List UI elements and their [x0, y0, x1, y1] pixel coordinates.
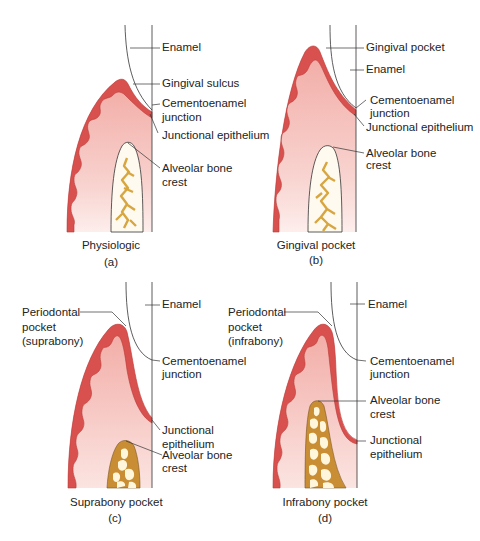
label-enamel: Enamel [162, 41, 201, 54]
label-periodontal: Periodontal [228, 306, 286, 319]
caption-letter-b: (b) [301, 254, 331, 267]
label-infrabony: (infrabony) [228, 335, 283, 348]
label-enamel: Enamel [162, 298, 201, 311]
caption-infrabony-pocket: Infrabony pocket [280, 496, 370, 509]
label-crest: crest [162, 462, 187, 475]
enamel-curve [331, 282, 357, 360]
label-enamel: Enamel [368, 298, 407, 311]
label-gingival-pocket: Gingival pocket [366, 41, 445, 54]
label-junction: junction [370, 107, 410, 120]
label-suprabony: (suprabony) [22, 335, 83, 348]
label-alveolar-bone: Alveolar bone [162, 162, 232, 175]
label-cementoenamel: Cementoenamel [370, 94, 454, 107]
caption-letter-c: (c) [100, 512, 130, 525]
label-crest: crest [162, 176, 187, 189]
caption-suprabony-pocket: Suprabony pocket [70, 496, 160, 509]
label-junction: junction [162, 111, 202, 124]
label-junctional: Junctional [162, 424, 214, 437]
label-pocket: pocket [22, 321, 56, 334]
label-junctional: Junctional [370, 434, 422, 447]
label-crest: crest [370, 408, 395, 421]
label-gingival-sulcus: Gingival sulcus [162, 77, 239, 90]
label-crest: crest [366, 159, 391, 172]
label-junction: junction [162, 368, 202, 381]
label-cementoenamel: Cementoenamel [162, 355, 246, 368]
label-enamel: Enamel [366, 63, 405, 76]
label-periodontal: Periodontal [22, 306, 80, 319]
caption-letter-a: (a) [96, 256, 126, 269]
label-junction: junction [370, 368, 410, 381]
label-alveolar-bone: Alveolar bone [370, 394, 440, 407]
label-cementoenamel: Cementoenamel [370, 355, 454, 368]
panel-a-physiologic [67, 25, 160, 232]
panel-b-gingival-pocket [273, 25, 366, 232]
label-pocket: pocket [228, 321, 262, 334]
caption-gingival-pocket: Gingival pocket [276, 239, 356, 252]
label-junctional-epithelium: Junctional epithelium [366, 121, 473, 134]
label-epithelium: epithelium [370, 448, 422, 461]
panel-d-infrabony-pocket [273, 282, 366, 488]
label-cementoenamel: Cementoenamel [162, 97, 246, 110]
panel-c-suprabony-pocket [68, 282, 162, 488]
caption-letter-d: (d) [310, 512, 340, 525]
caption-physiologic: Physiologic [76, 239, 146, 252]
label-alveolar-bone: Alveolar bone [162, 449, 232, 462]
label-junctional-epithelium: Junctional epithelium [162, 129, 269, 142]
